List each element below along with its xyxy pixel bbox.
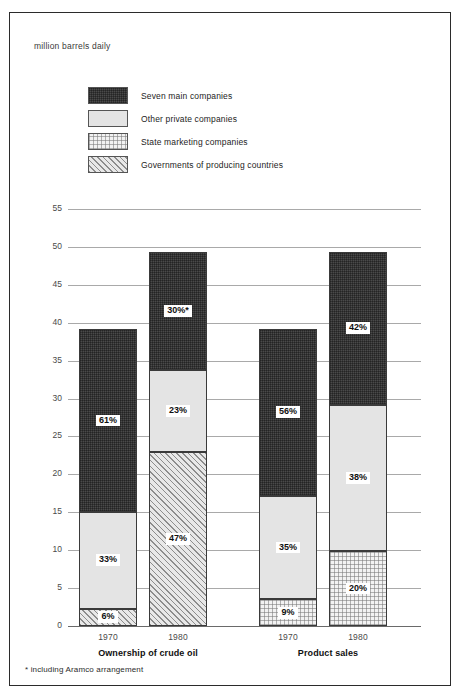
y-axis-tick-label: 35 xyxy=(16,355,62,365)
group-label-product-sales: Product sales xyxy=(259,648,397,658)
x-axis-label-1980-1: 1980 xyxy=(149,632,207,642)
y-axis-tick-label: 0 xyxy=(16,620,62,630)
bar-segment-value-label: 33% xyxy=(96,554,120,566)
bar-segment-other[interactable]: 38% xyxy=(329,405,387,551)
y-axis-tick-label: 5 xyxy=(16,582,62,592)
y-axis-tick: 25 xyxy=(10,436,62,437)
bar-segment-state[interactable]: 9% xyxy=(259,599,317,626)
gridline-55 xyxy=(68,209,421,210)
footnote: * including Aramco arrangement xyxy=(25,665,143,674)
bar-segment-value-label: 47% xyxy=(166,533,190,545)
bar-segment-other[interactable]: 23% xyxy=(149,370,207,452)
bar-segment-seven[interactable]: 42% xyxy=(329,252,387,404)
group-label-ownership-of-crude-oil: Ownership of crude oil xyxy=(79,648,217,658)
y-axis-tick: 15 xyxy=(10,512,62,513)
y-axis-tick: 35 xyxy=(10,361,62,362)
y-axis-tick: 20 xyxy=(10,474,62,475)
y-axis-tick: 45 xyxy=(10,285,62,286)
bar-segment-value-label: 38% xyxy=(346,472,370,484)
y-axis-tick-label: 45 xyxy=(16,279,62,289)
y-axis-tick: 30 xyxy=(10,399,62,400)
x-axis-label-1970-2: 1970 xyxy=(259,632,317,642)
bar-segment-seven[interactable]: 56% xyxy=(259,329,317,496)
bar-segment-other[interactable]: 33% xyxy=(79,512,137,608)
bar-segment-value-label: 61% xyxy=(96,415,120,427)
bar-product-sales-1980[interactable]: 42%38%20% xyxy=(329,252,387,626)
x-axis-label-1980-3: 1980 xyxy=(329,632,387,642)
x-axis-label-1970-0: 1970 xyxy=(79,632,137,642)
bar-segment-value-label: 9% xyxy=(278,607,297,619)
y-axis-tick-label: 55 xyxy=(16,203,62,213)
y-axis-tick: 5 xyxy=(10,588,62,589)
bar-segment-value-label: 56% xyxy=(276,406,300,418)
chart-frame: million barrels daily Seven main compani… xyxy=(9,12,451,686)
y-axis-tick-label: 50 xyxy=(16,241,62,251)
y-axis-tick: 50 xyxy=(10,247,62,248)
bar-segment-seven[interactable]: 30%* xyxy=(149,252,207,370)
bar-segment-value-label: 42% xyxy=(346,322,370,334)
y-axis-tick-label: 10 xyxy=(16,544,62,554)
y-axis-tick-label: 30 xyxy=(16,393,62,403)
bar-product-sales-1970[interactable]: 56%35%9% xyxy=(259,329,317,626)
y-axis-tick-label: 40 xyxy=(16,317,62,327)
y-axis-tick-label: 25 xyxy=(16,430,62,440)
bar-segment-value-label: 6% xyxy=(98,611,117,623)
bar-segment-value-label: 30%* xyxy=(164,305,192,317)
bar-segment-gov[interactable]: 6% xyxy=(79,609,137,626)
gridline-50 xyxy=(68,247,421,248)
bar-segment-other[interactable]: 35% xyxy=(259,496,317,600)
bar-segment-value-label: 20% xyxy=(346,583,370,595)
figure-root: million barrels daily Seven main compani… xyxy=(0,0,462,699)
bar-ownership-of-crude-oil-1980[interactable]: 30%*23%47% xyxy=(149,252,207,626)
y-axis-tick: 0 xyxy=(10,626,62,627)
x-axis-baseline xyxy=(68,626,421,627)
y-axis-tick-label: 15 xyxy=(16,506,62,516)
y-axis-tick: 55 xyxy=(10,209,62,210)
bar-segment-value-label: 23% xyxy=(166,405,190,417)
bar-segment-state[interactable]: 20% xyxy=(329,551,387,626)
bar-ownership-of-crude-oil-1970[interactable]: 61%33%6% xyxy=(79,329,137,626)
bar-segment-value-label: 35% xyxy=(276,542,300,554)
plot-area: 051015202530354045505561%33%6%197030%*23… xyxy=(10,13,452,687)
bar-segment-seven[interactable]: 61% xyxy=(79,329,137,512)
y-axis-tick: 40 xyxy=(10,323,62,324)
bar-segment-gov[interactable]: 47% xyxy=(149,452,207,626)
y-axis-tick-label: 20 xyxy=(16,468,62,478)
y-axis-tick: 10 xyxy=(10,550,62,551)
